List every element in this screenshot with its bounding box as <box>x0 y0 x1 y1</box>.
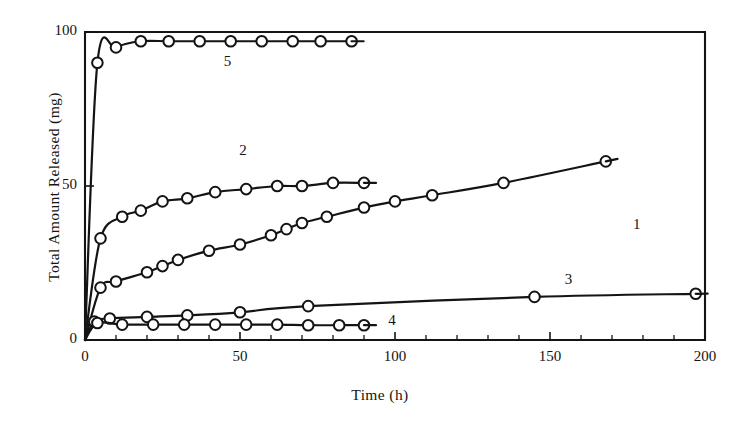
curve-label-2: 2 <box>232 142 254 159</box>
marker-5 <box>256 36 267 47</box>
marker-5 <box>136 36 147 47</box>
curve-2 <box>85 183 364 340</box>
marker-2 <box>95 233 106 244</box>
marker-1 <box>173 255 184 266</box>
marker-1 <box>157 261 168 272</box>
marker-1 <box>111 276 122 287</box>
axis-frame <box>85 32 705 340</box>
marker-2 <box>136 205 147 216</box>
marker-4 <box>241 319 252 330</box>
marker-3 <box>303 301 314 312</box>
marker-5 <box>315 36 326 47</box>
marker-2 <box>210 187 221 198</box>
x-tick-label-150: 150 <box>520 348 580 365</box>
marker-1 <box>322 212 333 223</box>
marker-4 <box>92 318 103 329</box>
marker-2 <box>272 181 283 192</box>
marker-2 <box>241 184 252 195</box>
marker-1 <box>427 190 438 201</box>
marker-5 <box>111 42 122 53</box>
marker-4 <box>303 320 314 331</box>
y-tick-label-100: 100 <box>31 22 77 39</box>
marker-4 <box>210 319 221 330</box>
marker-2 <box>297 181 308 192</box>
y-tick-label-0: 0 <box>31 330 77 347</box>
marker-1 <box>142 267 153 278</box>
curve-label-4: 4 <box>381 312 403 329</box>
marker-3 <box>529 292 540 303</box>
marker-1 <box>266 230 277 241</box>
marker-4 <box>272 319 283 330</box>
marker-4 <box>334 320 345 331</box>
x-tick-label-100: 100 <box>365 348 425 365</box>
marker-2 <box>117 212 128 223</box>
curve-label-5: 5 <box>217 53 239 70</box>
marker-1 <box>498 178 509 189</box>
marker-1 <box>95 282 106 293</box>
y-tick-label-50: 50 <box>31 176 77 193</box>
plot-frame <box>85 32 705 340</box>
marker-1 <box>359 202 370 213</box>
marker-4 <box>117 319 128 330</box>
marker-2 <box>182 193 193 204</box>
marker-1 <box>297 218 308 229</box>
marker-5 <box>163 36 174 47</box>
marker-2 <box>157 196 168 207</box>
x-tick-label-0: 0 <box>55 348 115 365</box>
marker-5 <box>287 36 298 47</box>
marker-2 <box>328 178 339 189</box>
marker-5 <box>194 36 205 47</box>
axis-ticks <box>85 32 705 340</box>
x-axis-title: Time (h) <box>290 386 470 404</box>
marker-1 <box>235 239 246 250</box>
marker-5 <box>92 58 103 69</box>
marker-1 <box>390 196 401 207</box>
marker-3 <box>235 307 246 318</box>
marker-1 <box>281 224 292 235</box>
marker-1 <box>204 245 215 256</box>
x-tick-label-50: 50 <box>210 348 270 365</box>
curve-label-3: 3 <box>558 271 580 288</box>
marker-4 <box>148 319 159 330</box>
data-curves <box>85 36 708 340</box>
curve-1 <box>85 161 606 340</box>
x-tick-label-200: 200 <box>675 348 735 365</box>
curve-label-1: 1 <box>626 216 648 233</box>
marker-4 <box>179 319 190 330</box>
marker-5 <box>225 36 236 47</box>
chart-figure: Total Amount Released (mg) Time (h) 0501… <box>0 0 739 422</box>
